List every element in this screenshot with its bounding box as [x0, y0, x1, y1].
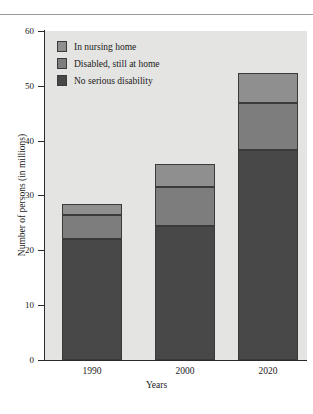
bar-segment[interactable]: [62, 215, 122, 240]
bar-segment[interactable]: [155, 226, 215, 360]
stacked-bar-chart-figure: 60 50 40 30 20 10 0 Number of persons (i…: [0, 0, 313, 414]
y-axis-tick: [38, 195, 45, 196]
bar-group-2020[interactable]: [238, 31, 298, 360]
bar-segment[interactable]: [238, 73, 298, 103]
y-axis-tick: [38, 360, 45, 361]
y-axis-tick: [38, 31, 45, 32]
y-axis-tick: [38, 141, 45, 142]
x-axis-tick-label: 1990: [62, 366, 122, 376]
y-axis-tick: [38, 250, 45, 251]
top-divider-rule: [0, 14, 313, 15]
bar-segment[interactable]: [238, 103, 298, 150]
legend-swatch-icon: [57, 41, 67, 52]
y-axis-tick: [38, 305, 45, 306]
x-axis-tick-label: 2000: [155, 366, 215, 376]
legend-item[interactable]: In nursing home: [57, 38, 207, 55]
legend-item-label: No serious disability: [74, 76, 153, 86]
bar-segment[interactable]: [155, 187, 215, 225]
y-axis-title: Number of persons (in millions): [17, 95, 27, 295]
legend-swatch-icon: [57, 58, 67, 69]
y-axis-tick-label: 10: [4, 301, 34, 310]
chart-legend: In nursing homeDisabled, still at homeNo…: [57, 38, 207, 89]
bar-segment[interactable]: [238, 150, 298, 360]
legend-item-label: In nursing home: [74, 42, 136, 52]
bar-segment[interactable]: [155, 164, 215, 187]
bar-segment[interactable]: [62, 239, 122, 360]
x-axis-title: Years: [0, 380, 313, 390]
y-axis-tick-label: 50: [4, 82, 34, 91]
y-axis-tick-label: 0: [4, 356, 34, 365]
x-axis-line: [44, 360, 307, 361]
y-axis-tick-label: 60: [4, 27, 34, 36]
legend-item[interactable]: Disabled, still at home: [57, 55, 207, 72]
y-axis-tick: [38, 86, 45, 87]
bar-segment[interactable]: [62, 204, 122, 215]
legend-item[interactable]: No serious disability: [57, 72, 207, 89]
legend-swatch-icon: [57, 75, 67, 86]
x-axis-tick-label: 2020: [238, 366, 298, 376]
legend-item-label: Disabled, still at home: [74, 59, 160, 69]
